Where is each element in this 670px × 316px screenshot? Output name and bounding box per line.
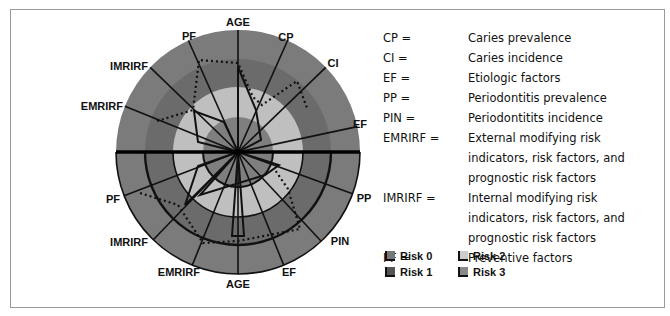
abbr-key: PIN = xyxy=(383,108,468,128)
abbr-value: External modifying risk indicators, risk… xyxy=(468,128,653,188)
abbr-key: EF = xyxy=(383,68,468,88)
abbr-key: PP = xyxy=(383,88,468,108)
abbr-value: Periodontitis prevalence xyxy=(468,88,653,108)
abbr-value: Caries incidence xyxy=(468,48,653,68)
legend-label: Risk 0 xyxy=(400,250,432,262)
legend-swatch-risk0 xyxy=(385,251,395,261)
legend-label: Risk 3 xyxy=(473,266,505,278)
abbr-value: Caries prevalence xyxy=(468,28,653,48)
abbr-key: EMRIRF = xyxy=(383,128,468,188)
axis-label-cp: CP xyxy=(278,31,293,43)
abbr-row-ef: EF =Etiologic factors xyxy=(383,68,653,88)
legend-swatch-risk1 xyxy=(385,267,395,277)
axis-label-age-top: AGE xyxy=(226,16,250,28)
abbr-value: Internal modifying risk indicators, risk… xyxy=(468,188,653,248)
center-point xyxy=(235,149,241,155)
legend-item-risk3: Risk 3 xyxy=(458,266,538,278)
risk-legend: Risk 0 Risk 2 Risk 1 Risk 3 xyxy=(385,250,538,278)
legend-swatch-risk2 xyxy=(458,251,468,261)
axis-label-pp: PP xyxy=(357,192,372,204)
abbr-value: Etiologic factors xyxy=(468,68,653,88)
axis-label-ci: CI xyxy=(328,57,339,69)
abbr-key: CI = xyxy=(383,48,468,68)
axis-label-pf-bottom: PF xyxy=(106,193,120,205)
axis-label-pin: PIN xyxy=(331,235,349,247)
axis-label-pf-top: PF xyxy=(182,30,196,42)
abbr-key: CP = xyxy=(383,28,468,48)
legend-item-risk2: Risk 2 xyxy=(458,250,538,262)
axis-label-emrirf-bottom: EMRIRF xyxy=(158,266,200,278)
abbr-row-pp: PP =Periodontitis prevalence xyxy=(383,88,653,108)
abbr-row-emrirf: EMRIRF =External modifying risk indicato… xyxy=(383,128,653,188)
legend-label: Risk 1 xyxy=(400,266,432,278)
abbr-value: Periodontitits incidence xyxy=(468,108,653,128)
legend-swatch-risk3 xyxy=(458,267,468,277)
axis-label-ef-top: EF xyxy=(353,118,367,130)
legend-item-risk1: Risk 1 xyxy=(385,266,458,278)
abbr-row-ci: CI =Caries incidence xyxy=(383,48,653,68)
abbr-key: IMRIRF = xyxy=(383,188,468,248)
axis-label-imrirf-top: IMRIRF xyxy=(110,60,148,72)
abbr-row-pin: PIN =Periodontitits incidence xyxy=(383,108,653,128)
legend-label: Risk 2 xyxy=(473,250,505,262)
axis-label-age-bottom: AGE xyxy=(226,278,250,290)
axis-label-imrirf-bottom: IMRIRF xyxy=(110,236,148,248)
axis-label-ef-bottom: EF xyxy=(282,266,296,278)
axis-label-emrirf-top: EMRIRF xyxy=(81,100,123,112)
abbr-row-imrirf: IMRIRF =Internal modifying risk indicato… xyxy=(383,188,653,248)
legend-item-risk0: Risk 0 xyxy=(385,250,458,262)
abbreviation-list: CP =Caries prevalence CI =Caries inciden… xyxy=(383,28,653,268)
abbr-row-cp: CP =Caries prevalence xyxy=(383,28,653,48)
